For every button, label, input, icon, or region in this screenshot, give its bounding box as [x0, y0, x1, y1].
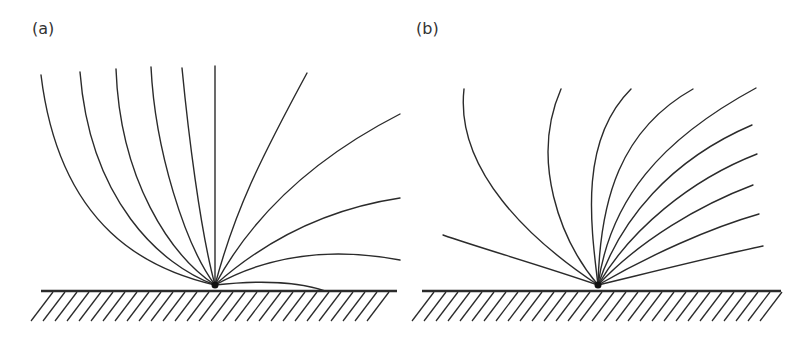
source-point [595, 282, 602, 289]
field-line [598, 125, 752, 285]
field-line [215, 254, 400, 285]
field-line [41, 75, 215, 285]
panel-a [31, 66, 400, 321]
source-point [212, 282, 219, 289]
field-line [548, 89, 598, 285]
field-line [598, 88, 756, 285]
field-line [443, 235, 598, 285]
field-line [215, 73, 307, 285]
panel-b [412, 88, 782, 321]
field-line [182, 68, 215, 285]
field-line [591, 89, 631, 285]
field-line [598, 89, 693, 285]
field-line [116, 69, 215, 285]
field-line [215, 282, 325, 291]
ground-hatching [412, 292, 782, 321]
field-line [598, 246, 763, 285]
field-lines-diagram [0, 0, 806, 338]
field-line [215, 114, 400, 285]
ground-hatching [31, 292, 389, 321]
